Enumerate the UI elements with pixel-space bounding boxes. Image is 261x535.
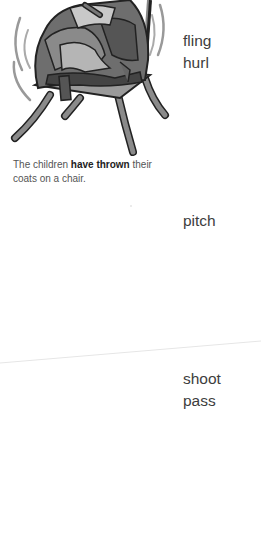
synonym-group-pitch: pitch bbox=[183, 210, 216, 232]
synonym-pass: pass bbox=[183, 390, 221, 412]
synonym-fling: fling bbox=[183, 30, 211, 52]
speck bbox=[130, 205, 132, 207]
chair-with-coats-illustration bbox=[0, 0, 175, 158]
synonym-group-shoot-pass: shoot pass bbox=[183, 368, 221, 412]
synonym-hurl: hurl bbox=[183, 52, 211, 74]
synonym-pitch: pitch bbox=[183, 210, 216, 232]
example-caption: The children have thrown their coats on … bbox=[13, 158, 173, 186]
caption-emphasis: have thrown bbox=[71, 159, 130, 170]
synonym-group-fling-hurl: fling hurl bbox=[183, 30, 211, 74]
synonym-shoot: shoot bbox=[183, 368, 221, 390]
caption-before: The children bbox=[13, 159, 71, 170]
